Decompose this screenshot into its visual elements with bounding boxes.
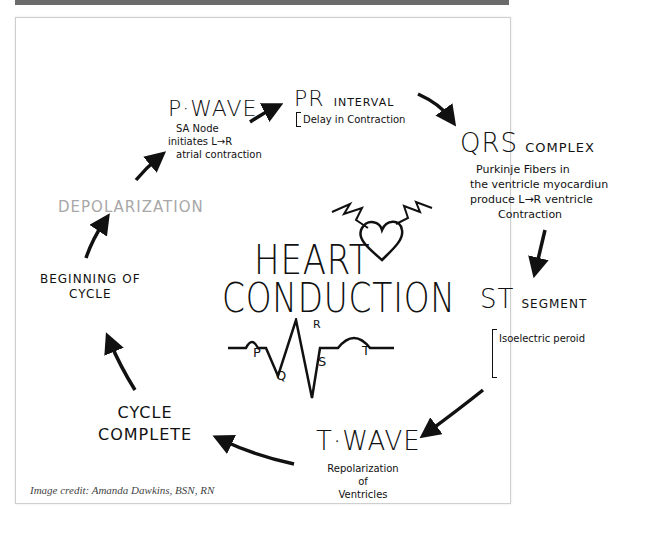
t-wave-desc-2: of bbox=[318, 475, 408, 488]
qrs-title-small: COMPLEX bbox=[525, 140, 595, 155]
step-cycle-complete: CYCLE COMPLETE bbox=[98, 402, 192, 446]
st-segment: ST SEGMENT bbox=[480, 284, 587, 314]
image-credit: Image credit: Amanda Dawkins, BSN, RN bbox=[30, 484, 214, 496]
ecg-label-q: Q bbox=[276, 368, 286, 383]
beginning-line1: BEGINNING OF bbox=[40, 272, 141, 287]
qrs-desc-3: produce L→R ventricle bbox=[470, 192, 608, 207]
title-heart: HEART bbox=[254, 240, 370, 280]
pr-title-small: INTERVAL bbox=[334, 96, 395, 109]
p-wave-desc-3: atrial contraction bbox=[168, 148, 262, 161]
st-desc-3: and repolarization bbox=[499, 361, 654, 376]
pr-interval: PR INTERVAL bbox=[294, 86, 394, 111]
t-wave-desc-3: Ventricles bbox=[318, 488, 408, 501]
step-depolarization: DEPOLARIZATION bbox=[58, 198, 204, 216]
title-conduction: CONDUCTION bbox=[222, 278, 456, 318]
t-wave-title: T·WAVE bbox=[316, 426, 421, 456]
st-desc: Isoelectric peroid between depolarizatio… bbox=[492, 329, 654, 378]
st-desc-2: between depolarization bbox=[499, 346, 654, 361]
ecg-label-s: S bbox=[318, 354, 326, 369]
st-title-big: ST bbox=[480, 284, 514, 314]
qrs-desc: Purkinje Fibers in the ventricle myocard… bbox=[470, 162, 608, 222]
p-wave-desc-2: initiates L→R bbox=[168, 135, 262, 148]
pr-title-big: PR bbox=[294, 86, 325, 111]
p-wave-desc: SA Node initiates L→R atrial contraction bbox=[168, 122, 262, 161]
qrs-desc-4: Contraction bbox=[470, 207, 608, 222]
beginning-line2: CYCLE bbox=[40, 287, 141, 302]
qrs-title-big: QRS bbox=[460, 128, 518, 158]
pr-desc: Delay in Contraction bbox=[296, 112, 654, 127]
qrs-complex: QRS COMPLEX bbox=[460, 128, 595, 158]
ecg-label-p: P bbox=[253, 345, 261, 360]
cycle-complete-line2: COMPLETE bbox=[98, 424, 192, 446]
ecg-label-r: R bbox=[313, 318, 321, 331]
qrs-desc-1: Purkinje Fibers in bbox=[470, 162, 608, 177]
st-desc-1: Isoelectric peroid bbox=[499, 331, 654, 346]
cycle-complete-line1: CYCLE bbox=[98, 402, 192, 424]
p-wave-title: P·WAVE bbox=[168, 96, 257, 121]
st-title-small: SEGMENT bbox=[521, 297, 587, 311]
t-wave-desc: Repolarization of Ventricles bbox=[318, 462, 408, 501]
qrs-desc-2: the ventricle myocardiun bbox=[470, 177, 608, 192]
t-wave-desc-1: Repolarization bbox=[318, 462, 408, 475]
p-wave-desc-1: SA Node bbox=[168, 122, 262, 135]
ecg-label-t: T bbox=[362, 343, 370, 358]
step-beginning: BEGINNING OF CYCLE bbox=[40, 272, 141, 302]
